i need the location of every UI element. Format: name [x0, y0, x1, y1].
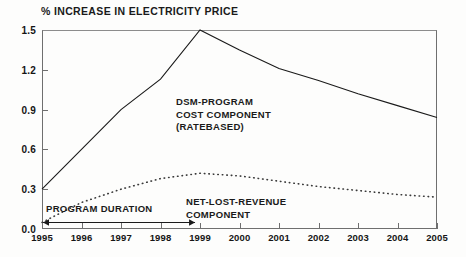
x-tick-label: 2001	[268, 232, 290, 243]
x-tick-label: 2003	[347, 232, 369, 243]
dsm-annotation-line-2: COST COMPONENT	[176, 109, 271, 122]
dsm-annotation-line-1: DSM-PROGRAM	[176, 96, 271, 109]
electricity-price-chart: % INCREASE IN ELECTRICITY PRICE 0.00.30.…	[0, 0, 466, 257]
nlr-annotation-line-1: NET-LOST-REVENUE	[186, 196, 286, 209]
x-tick-label: 2000	[229, 232, 251, 243]
x-tick-mark	[437, 223, 438, 229]
x-tick-label: 1996	[71, 232, 93, 243]
y-axis-labels: 0.00.30.60.91.21.5	[0, 0, 36, 257]
x-tick-label: 1998	[150, 232, 172, 243]
y-tick-label: 0.6	[21, 144, 36, 155]
y-tick-label: 0.9	[21, 104, 36, 115]
x-tick-label: 2004	[387, 232, 409, 243]
dsm-annotation-line-3: (RATEBASED)	[176, 121, 271, 134]
x-tick-label: 1997	[110, 232, 132, 243]
x-tick-label: 1995	[31, 232, 53, 243]
nlr-annotation-line-2: COMPONENT	[186, 209, 286, 222]
x-tick-label: 1999	[189, 232, 211, 243]
program-duration-label: PROGRAM DURATION	[46, 203, 152, 214]
y-tick-label: 0.3	[21, 184, 36, 195]
y-tick-label: 1.2	[21, 64, 36, 75]
x-tick-label: 2005	[426, 232, 448, 243]
net-lost-revenue-annotation: NET-LOST-REVENUE COMPONENT	[186, 196, 286, 221]
program-duration-arrow-icon	[42, 217, 196, 228]
chart-title: % INCREASE IN ELECTRICITY PRICE	[41, 5, 238, 17]
x-tick-label: 2002	[308, 232, 330, 243]
dsm-program-cost-annotation: DSM-PROGRAM COST COMPONENT (RATEBASED)	[176, 96, 271, 134]
program-duration-annotation: PROGRAM DURATION	[42, 203, 196, 229]
y-tick-label: 1.5	[21, 25, 36, 36]
